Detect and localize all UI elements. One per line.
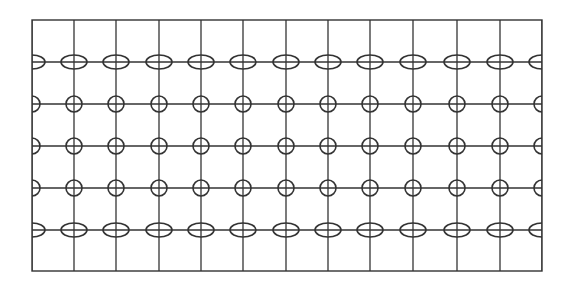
grid-diagram (0, 0, 569, 288)
grid-content (19, 20, 555, 271)
diagram-canvas (0, 0, 569, 288)
